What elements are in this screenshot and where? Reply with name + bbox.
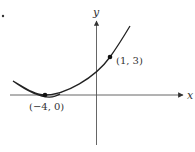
point-1-3 xyxy=(108,55,113,60)
point-b-label: (1, 3) xyxy=(116,55,143,66)
parabola-graph: y x (−4, 0) (1, 3) xyxy=(0,0,195,152)
parabola-curve xyxy=(13,26,130,97)
x-axis-label: x xyxy=(187,89,194,102)
y-axis-label: y xyxy=(92,6,100,19)
vertex-point xyxy=(43,93,48,98)
vertex-label: (−4, 0) xyxy=(29,101,64,112)
stray-bullet-mark xyxy=(2,15,4,17)
